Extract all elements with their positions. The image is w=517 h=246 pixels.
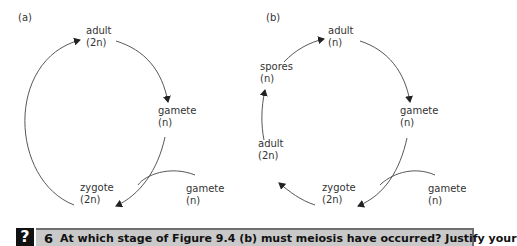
node-gamete-b: gamete(n) xyxy=(400,105,438,129)
arrow-zygote-to-adult2n-b xyxy=(279,183,315,205)
node-ploidy: (n) xyxy=(428,195,442,206)
question-text: At which stage of Figure 9.4 (b) must me… xyxy=(60,232,517,245)
arrow-adult-to-gamete-a xyxy=(116,41,168,102)
node-ploidy: (2n) xyxy=(322,194,343,205)
node-zygote-b: zygote(2n) xyxy=(322,182,356,206)
node-spores-b: spores(n) xyxy=(260,61,293,85)
node-name: gamete xyxy=(186,183,224,194)
node-gamete2-b: gamete(n) xyxy=(428,183,466,207)
node-name: adult xyxy=(328,25,354,36)
node-name: zygote xyxy=(322,182,356,193)
node-ploidy: (2n) xyxy=(86,37,107,48)
node-name: spores xyxy=(260,61,293,72)
panel-a-tag: (a) xyxy=(18,12,32,23)
question-bar: ? 6 At which stage of Figure 9.4 (b) mus… xyxy=(16,228,474,246)
question-mark-icon: ? xyxy=(16,228,34,246)
arrow-gamete-to-zygote-b xyxy=(358,138,407,206)
node-ploidy: (n) xyxy=(158,117,172,128)
question-box: 6 At which stage of Figure 9.4 (b) must … xyxy=(36,228,474,246)
node-adult2n-b: adult(2n) xyxy=(258,138,284,162)
node-ploidy: (n) xyxy=(260,73,274,84)
node-ploidy: (2n) xyxy=(80,194,101,205)
node-name: adult xyxy=(86,25,112,36)
arrow-adult2n-to-spores-b xyxy=(262,90,265,140)
node-gamete-a: gamete(n) xyxy=(158,105,196,129)
panel-b-tag: (b) xyxy=(266,12,280,23)
node-ploidy: (n) xyxy=(328,37,342,48)
node-adult-b: adult(n) xyxy=(328,25,354,49)
node-adult-a: adult(2n) xyxy=(86,25,112,49)
node-zygote-a: zygote(2n) xyxy=(80,182,114,206)
arrow-gamete-to-zygote-a xyxy=(116,137,165,206)
node-ploidy: (n) xyxy=(400,117,414,128)
node-ploidy: (2n) xyxy=(258,150,279,161)
node-name: adult xyxy=(258,138,284,149)
question-number: 6 xyxy=(44,231,53,246)
arrow-adult-to-gamete-b xyxy=(360,41,410,102)
node-name: zygote xyxy=(80,182,114,193)
node-ploidy: (n) xyxy=(186,195,200,206)
node-name: gamete xyxy=(158,105,196,116)
node-name: gamete xyxy=(400,105,438,116)
arrow-spores-to-adult-b xyxy=(284,39,324,62)
arrow-zygote-to-adult-a xyxy=(25,40,80,205)
node-gamete2-a: gamete(n) xyxy=(186,183,224,207)
node-name: gamete xyxy=(428,183,466,194)
